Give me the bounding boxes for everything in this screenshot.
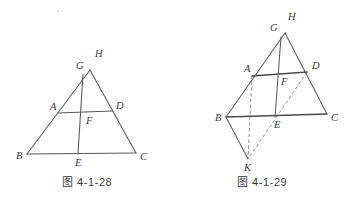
figure-4-1-29-drawing: H G A D F B E C K	[175, 0, 349, 175]
segment-GE	[78, 74, 83, 154]
point-label-K: K	[243, 162, 252, 173]
point-label-D: D	[311, 60, 320, 71]
figure-4-1-28-drawing: H G A D F B E C	[0, 0, 174, 175]
figure-4-1-29: H G A D F B E C K 图 4-1-29	[175, 0, 349, 209]
point-label-E: E	[74, 157, 82, 168]
point-label-H: H	[94, 48, 104, 59]
point-label-F: F	[280, 76, 288, 87]
point-label-A: A	[243, 63, 251, 74]
point-label-C: C	[140, 151, 148, 162]
point-label-C: C	[331, 112, 339, 123]
figure-caption-4-1-29: 图 4-1-29	[175, 173, 349, 189]
figure-4-1-28: H G A D F B E C 图 4-1-28	[0, 0, 174, 209]
point-label-E: E	[273, 119, 281, 130]
point-label-B: B	[16, 150, 23, 161]
segment-AK	[248, 76, 252, 159]
segment-AD	[252, 72, 307, 76]
paper-speck	[57, 10, 59, 12]
point-label-G: G	[76, 60, 84, 71]
point-label-H: H	[287, 11, 297, 22]
segment-BC	[27, 153, 136, 154]
point-label-F: F	[85, 115, 93, 126]
figure-caption-4-1-28: 图 4-1-28	[0, 173, 174, 189]
point-label-A: A	[49, 101, 57, 112]
segment-AD	[58, 111, 112, 113]
point-label-D: D	[115, 100, 124, 111]
point-label-G: G	[270, 22, 278, 33]
point-label-B: B	[215, 112, 222, 123]
segment-BK	[226, 117, 248, 159]
